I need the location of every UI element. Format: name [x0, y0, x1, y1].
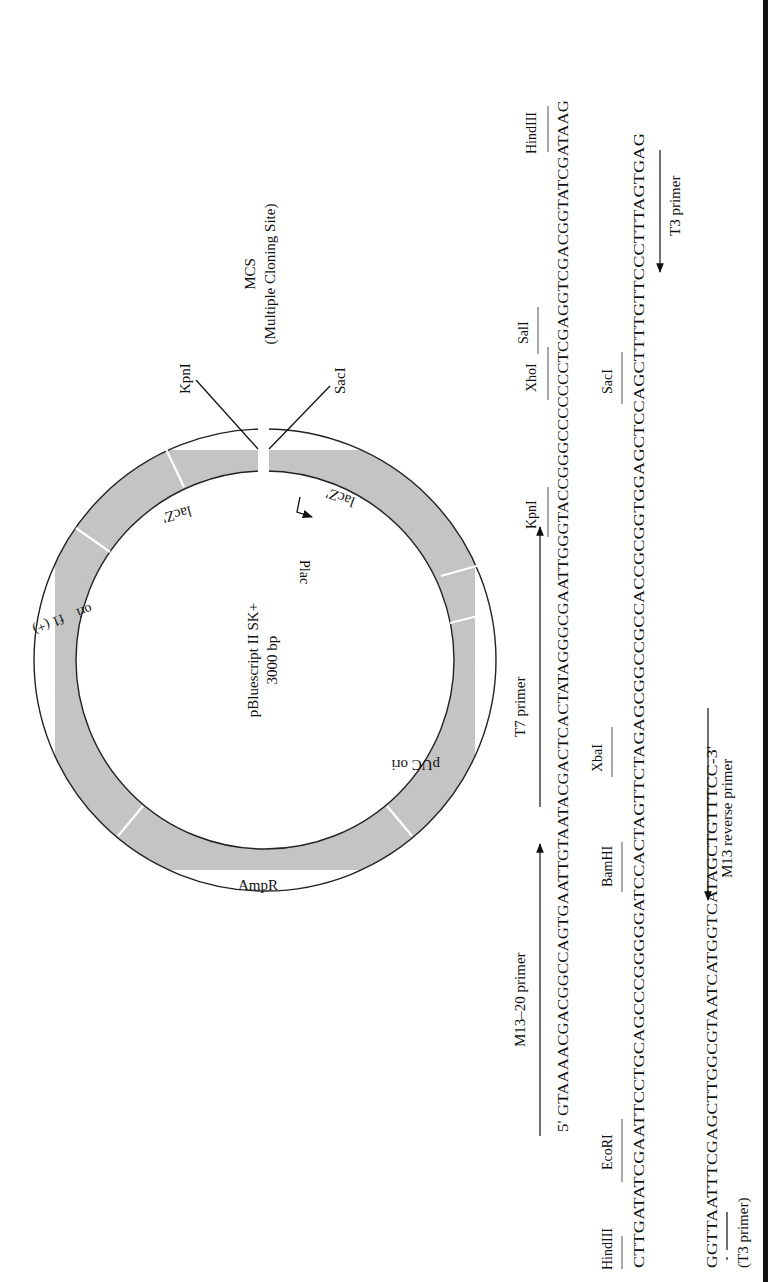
site-bamhi: BamHI	[600, 845, 615, 887]
sequence-text-3: GGTTAATTTCGAGCTTGGCGTAATCATGGTCATAGCTGTT…	[703, 746, 720, 1268]
site-sali: SalI	[516, 321, 531, 344]
m13-reverse-primer-label: M13 reverse primer	[719, 759, 735, 878]
site-saci-seq: SacI	[600, 369, 615, 394]
sequence-line-3: GGTTAATTTCGAGCTTGGCGTAATCATGGTCATAGCTGTT…	[703, 708, 752, 1268]
plac-promoter-arrow	[297, 497, 312, 517]
sequence-line-2: HindIII EcoRI BamHI XbaI SacI CTTGATATCG…	[590, 133, 683, 1270]
site-xbai: XbaI	[590, 744, 605, 772]
plac-label: Plac	[297, 560, 312, 584]
segment-label-lacz-right: lacZ'	[161, 503, 194, 526]
sequence-line-1: M13–20 primer T7 primer KpnI XhoI SalI H…	[512, 100, 571, 1136]
t3-primer-label: T3 primer	[667, 176, 683, 236]
mcs-gap	[258, 427, 269, 475]
rotated-figure-content: lacZ' lacZ' pUC ori AmpR f1 (+) ori Plac…	[0, 0, 776, 1282]
site-hindiii-2: HindIII	[600, 1228, 615, 1270]
site-kpni: KpnI	[524, 500, 539, 529]
mcs-kpni-label: KpnI	[177, 363, 193, 394]
sequence-text-1: 5' GTAAAACGACGGCCAGTGAATTGTAATACGACTCACT…	[554, 100, 571, 1132]
plasmid-map-figure: lacZ' lacZ' pUC ori AmpR f1 (+) ori Plac…	[0, 0, 776, 1282]
site-xhoi: XhoI	[524, 363, 539, 392]
plasmid-name: pBluescript II SK+	[245, 603, 261, 717]
m13-20-primer-label: M13–20 primer	[512, 952, 528, 1047]
segment-label-ampr: AmpR	[238, 877, 278, 893]
figure-border	[763, 0, 768, 1282]
mcs-subtitle: (Multiple Cloning Site)	[262, 204, 279, 345]
mcs-title: MCS	[242, 258, 258, 290]
plasmid-size: 3000 bp	[264, 636, 280, 685]
site-ecori: EcoRI	[600, 1134, 615, 1170]
segment-label-puc-ori: pUC ori	[391, 757, 440, 773]
t3-primer-paren-label: (T3 primer)	[735, 1198, 752, 1268]
mcs-saci-label: SacI	[332, 367, 348, 394]
site-hindiii-1: HindIII	[524, 112, 539, 154]
sequence-text-2: CTTGATATCGAATTCCTGCAGCCCGGGGGATCCACTAGTT…	[630, 133, 647, 1268]
t7-primer-label: T7 primer	[512, 677, 528, 737]
